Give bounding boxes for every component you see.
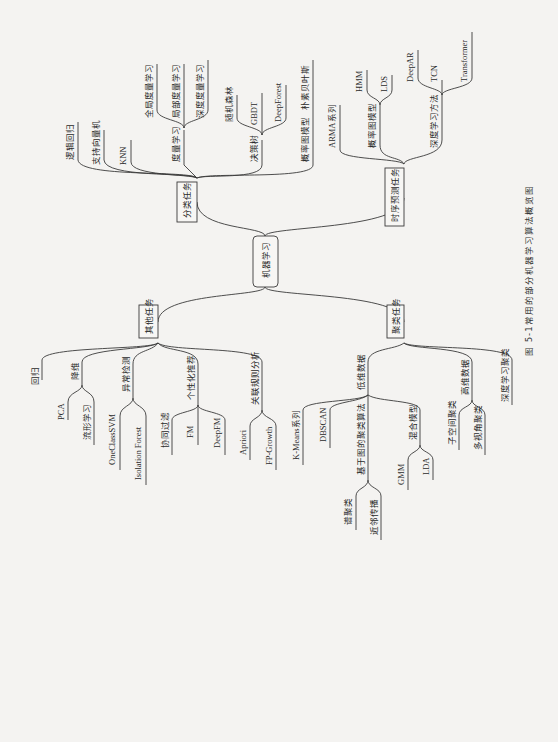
node-random-forest: 随机森林 — [224, 86, 234, 122]
node-dl-methods: 深度学习方法 — [429, 94, 439, 148]
classification-label: 分类任务 — [182, 182, 192, 218]
node-deepfm: DeepFM — [212, 417, 222, 448]
node-assoc-rules: 关联规则分析 — [250, 351, 260, 405]
node-transformer: Transformer — [459, 40, 469, 82]
other-label: 其他任务 — [144, 298, 154, 334]
node-deep-metric: 深度度量学习 — [195, 64, 205, 118]
node-local-metric: 局部度量学习 — [171, 64, 181, 118]
node-kmeans: K-Means系列 — [291, 410, 301, 460]
node-recsys: 个性化推荐 — [186, 355, 196, 400]
node-naive-bayes: 朴素贝叶斯 — [300, 65, 310, 110]
node-regression: 回归 — [30, 367, 40, 385]
figure-caption: 常用的部分机器学习算法概览图 — [524, 185, 534, 325]
node-graph-clustering: 基于图的聚类算法 — [356, 403, 366, 475]
clustering-label: 聚类任务 — [391, 298, 401, 334]
node-dimred: 降维 — [70, 362, 80, 380]
node-lowdim: 低维数据 — [356, 354, 366, 390]
node-pca: PCA — [56, 403, 66, 420]
node-decision-tree: 决策树 — [249, 135, 259, 162]
node-anomaly: 异常检测 — [121, 356, 131, 392]
node-gbdt: GBDT — [249, 101, 259, 125]
node-tcn: TCN — [429, 65, 439, 82]
root-label: 机器学习 — [261, 242, 271, 278]
figure-number: 图 5-1 — [524, 325, 534, 356]
node-subspace: 子空间聚类 — [447, 400, 457, 445]
node-ocsvm: OneClassSVM — [107, 414, 117, 465]
node-logistic-regression: 逻辑回归 — [65, 124, 75, 160]
node-hmm: HMM — [354, 70, 364, 92]
node-manifold: 流形学习 — [82, 404, 92, 440]
node-gmm: GMM — [396, 463, 406, 485]
node-apriori: Apriori — [238, 429, 248, 455]
node-deepforest: DeepForest — [273, 82, 283, 122]
node-mixture: 混合模型 — [408, 404, 418, 440]
node-pgm-timeseries: 概率图模型 — [367, 103, 377, 148]
node-knn: KNN — [118, 147, 128, 165]
node-iforest: Isolation Forest — [133, 426, 143, 480]
node-svm: 支持向量机 — [91, 120, 101, 165]
node-global-metric: 全局度量学习 — [144, 64, 154, 118]
node-dbscan: DBSCAN — [318, 408, 328, 442]
node-cf: 协同过滤 — [160, 412, 170, 448]
node-deepar: DeepAR — [405, 52, 415, 82]
node-metric-learning: 度量学习 — [171, 126, 181, 162]
ml-algorithm-mindmap: 机器学习 分类任务 时序预测任务 其他任务 聚类任务 逻辑回归 支持向量机 KN… — [0, 0, 558, 742]
node-fpgrowth: FP-Growth — [264, 426, 274, 465]
node-pgm-classification: 概率图模型 — [300, 117, 310, 162]
node-multiview: 多视角聚类 — [473, 405, 483, 450]
node-highdim: 高维数据 — [460, 359, 470, 395]
node-lda: LDA — [421, 457, 431, 475]
node-arma: ARMA系列 — [327, 104, 337, 148]
node-lds: LDS — [379, 76, 389, 92]
node-affinity-prop: 近邻传播 — [369, 499, 379, 535]
timeseries-label: 时序预测任务 — [390, 168, 400, 222]
node-spectral: 谱聚类 — [343, 498, 353, 525]
node-deep-clustering: 深度学习聚类 — [500, 348, 510, 402]
node-fm: FM — [185, 425, 195, 438]
